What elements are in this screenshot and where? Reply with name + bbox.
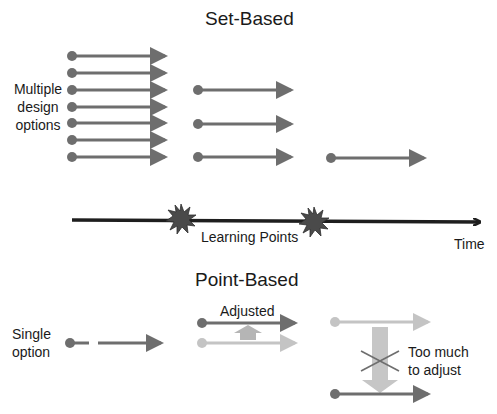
option-arrow-2 <box>67 68 165 78</box>
set-based-stage1-arrows <box>67 51 165 162</box>
label-line: Too much <box>408 343 469 361</box>
option-arrow-s2-3 <box>193 152 291 162</box>
option-arrow-s3-1 <box>326 153 424 163</box>
option-arrow-1 <box>67 51 165 61</box>
option-arrow-s2-2 <box>193 119 291 129</box>
too-much-to-adjust-label: Too much to adjust <box>408 343 469 379</box>
single-option-label: Single option <box>12 325 51 361</box>
time-axis-label: Time <box>454 235 485 253</box>
set-based-stage2-arrows <box>193 85 291 162</box>
option-arrow-4 <box>67 102 165 112</box>
timeline-axis <box>72 220 480 222</box>
multiple-options-label: Multiple design options <box>12 80 64 134</box>
adjust-up-arrow-icon <box>234 325 262 340</box>
big-down-arrow-icon <box>362 327 398 393</box>
set-based-title: Set-Based <box>205 8 294 30</box>
adjusted-label: Adjusted <box>220 302 274 320</box>
option-arrow-6 <box>67 135 165 145</box>
label-line: option <box>12 343 51 361</box>
label-line: Single <box>12 325 51 343</box>
point-based-title: Point-Based <box>195 269 299 291</box>
learning-points-label: Learning Points <box>201 228 298 246</box>
label-line: options <box>12 116 64 134</box>
option-arrow-s2-1 <box>193 85 291 95</box>
single-option-arrow <box>65 338 161 348</box>
label-line: design <box>12 98 64 116</box>
label-line: to adjust <box>408 361 469 379</box>
option-arrow-5 <box>67 118 165 128</box>
label-line: Multiple <box>12 80 64 98</box>
option-arrow-3 <box>67 85 165 95</box>
option-arrow-7 <box>67 152 165 162</box>
set-based-stage3-arrows <box>326 153 424 163</box>
too-much-old-arrow <box>330 317 428 327</box>
